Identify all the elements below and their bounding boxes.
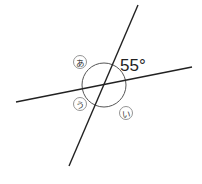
- diagram-canvas: 55° あ い う: [0, 0, 202, 184]
- angle-label-u: う: [74, 98, 87, 111]
- angle-55-label: 55°: [120, 56, 146, 75]
- label-u-text: う: [76, 100, 85, 110]
- diagram-svg: 55° あ い う: [0, 0, 202, 184]
- label-a-text: あ: [76, 58, 85, 68]
- angle-label-a: あ: [74, 56, 87, 69]
- angle-label-i: い: [120, 107, 133, 120]
- line-steep: [69, 5, 138, 166]
- label-i-text: い: [122, 109, 131, 119]
- line-shallow: [16, 67, 192, 102]
